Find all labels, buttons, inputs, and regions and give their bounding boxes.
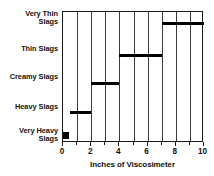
y-axis-label-heavy-slags: Heavy Slags [0, 103, 58, 111]
x-tick-6 [147, 142, 148, 146]
gridline-9 [190, 12, 191, 141]
gridline-3 [105, 12, 106, 141]
x-axis-tick-labels: 0 2 4 6 8 10 [0, 147, 214, 159]
x-tick-2 [90, 142, 91, 146]
viscosimeter-range-chart: Very Thin Slags Thin Slags Creamy Slags … [0, 0, 214, 176]
x-tick-4 [118, 142, 119, 146]
x-tick-5 [133, 142, 134, 145]
x-tick-3 [104, 142, 105, 145]
x-tick-9 [189, 142, 190, 145]
x-tick-label-10: 10 [193, 147, 213, 156]
y-axis-label-very-heavy-slags: Very Heavy Slags [0, 127, 58, 144]
x-tick-10 [203, 142, 204, 146]
x-tick-1 [76, 142, 77, 145]
x-axis-title: Inches of Viscosimeter [62, 160, 203, 169]
bar-thin-slags [119, 54, 161, 57]
x-tick-label-2: 2 [80, 147, 100, 156]
gridline-6 [148, 12, 149, 141]
plot-area [62, 11, 203, 142]
y-axis-category-labels: Very Thin Slags Thin Slags Creamy Slags … [0, 10, 58, 142]
y-axis-label-thin-slags: Thin Slags [0, 45, 58, 53]
gridline-7 [162, 12, 163, 141]
gridline-5 [134, 12, 135, 141]
x-tick-8 [175, 142, 176, 146]
gridline-4 [119, 12, 120, 141]
x-tick-label-8: 8 [165, 147, 185, 156]
gridline-8 [176, 12, 177, 141]
bar-very-heavy-slags [63, 132, 69, 139]
x-tick-7 [161, 142, 162, 145]
x-tick-0 [62, 142, 63, 146]
y-axis-label-very-thin-slags: Very Thin Slags [0, 10, 58, 27]
bar-heavy-slags [70, 111, 91, 114]
bar-creamy-slags [91, 82, 119, 85]
x-tick-label-0: 0 [52, 147, 72, 156]
gridline-2 [91, 12, 92, 141]
y-axis-label-creamy-slags: Creamy Slags [0, 73, 58, 81]
x-tick-label-4: 4 [108, 147, 128, 156]
x-tick-label-6: 6 [137, 147, 157, 156]
bar-very-thin-slags [162, 22, 204, 25]
gridline-1 [77, 12, 78, 141]
